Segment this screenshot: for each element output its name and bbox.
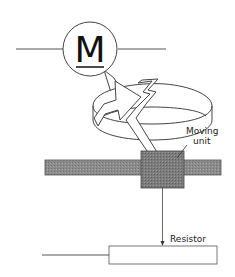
- moving-unit-label-2: unit: [193, 136, 211, 146]
- resistor-label: Resistor: [170, 234, 206, 244]
- motor-symbol: M: [74, 29, 105, 70]
- wiper-arrowhead-icon: [161, 241, 165, 246]
- moving-unit-label-1: Moving: [186, 126, 219, 136]
- guide-bar: [45, 160, 221, 175]
- potentiometer-diagram: M Moving unit Resistor: [0, 0, 235, 277]
- resistor: [109, 246, 217, 264]
- motor: M: [63, 22, 117, 76]
- moving-unit: [141, 151, 184, 188]
